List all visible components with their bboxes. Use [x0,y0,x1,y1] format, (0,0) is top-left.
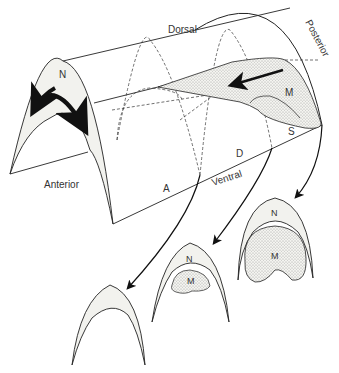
label-m-posterior: M [271,251,279,261]
label-n-anterior: N [59,69,66,80]
label-anterior: Anterior [44,179,80,190]
label-n-posterior: N [271,208,278,218]
mesoderm-sheet [158,58,321,128]
label-dorsal: Dorsal [168,24,197,35]
cross-section-anterior [72,285,145,365]
tube-diagram: Dorsal Posterior Anterior Ventral A D S … [0,0,339,373]
label-ventral: Ventral [210,168,243,188]
label-a: A [163,183,170,194]
label-s: S [288,126,295,137]
label-n-middle: N [186,254,193,264]
label-m-sheet: M [285,87,293,98]
label-posterior: Posterior [303,18,332,59]
anterior-section [10,58,113,224]
label-d: D [236,148,243,159]
diagram-canvas: Dorsal Posterior Anterior Ventral A D S … [0,0,339,373]
label-m-middle: M [187,276,195,286]
